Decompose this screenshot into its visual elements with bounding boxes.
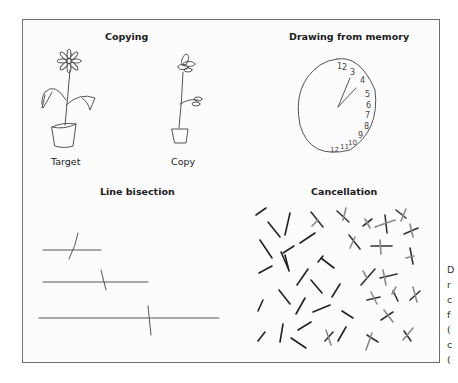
target-flower-icon — [42, 49, 95, 148]
caption-line: ( — [447, 322, 458, 337]
clock-drawing-icon — [298, 59, 375, 153]
svg-text:8: 8 — [364, 122, 369, 131]
svg-text:12: 12 — [330, 146, 339, 154]
copy-flower-icon — [172, 53, 202, 143]
caption-line: r — [447, 277, 458, 292]
svg-text:9: 9 — [358, 131, 363, 140]
svg-text:3: 3 — [350, 68, 355, 77]
caption-line: c — [447, 292, 458, 307]
cancellation-marks — [256, 208, 420, 350]
side-caption: D r c f ( c ( — [447, 262, 458, 367]
svg-text:10: 10 — [348, 139, 357, 147]
caption-line: f — [447, 307, 458, 322]
drawings: 1 2 3 4 5 6 7 8 9 10 11 12 — [0, 0, 458, 383]
svg-text:11: 11 — [340, 143, 349, 151]
svg-text:4: 4 — [360, 76, 365, 85]
svg-text:7: 7 — [365, 111, 370, 120]
svg-text:2: 2 — [342, 63, 347, 72]
caption-line: c — [447, 337, 458, 352]
clock-numbers: 1 2 3 4 5 6 7 8 9 10 11 12 — [330, 62, 371, 154]
svg-text:6: 6 — [366, 101, 371, 110]
line-bisection-lines — [39, 233, 219, 335]
svg-text:5: 5 — [365, 90, 370, 99]
caption-line: ( — [447, 352, 458, 367]
caption-line: D — [447, 262, 458, 277]
